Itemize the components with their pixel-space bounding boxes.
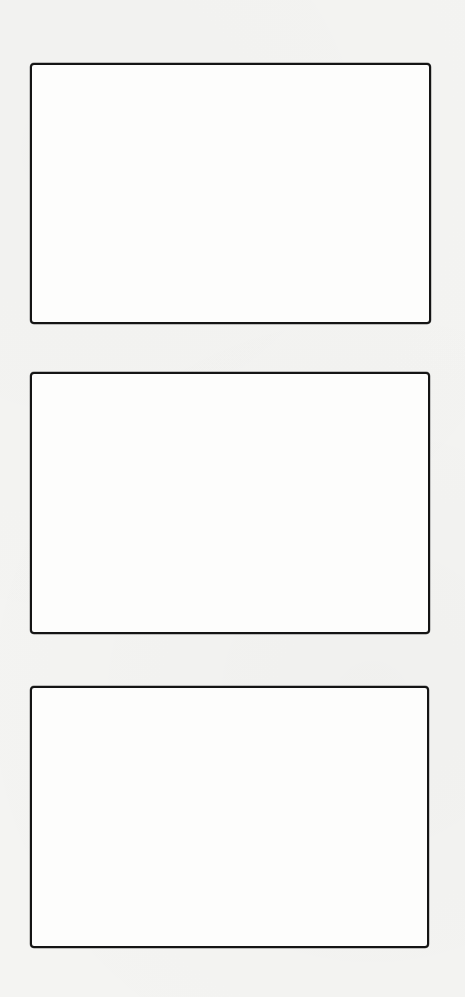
storyboard-panel-1 xyxy=(30,63,431,324)
storyboard-panel-2 xyxy=(30,372,430,634)
storyboard-page xyxy=(0,0,465,997)
storyboard-panel-3 xyxy=(30,686,429,948)
